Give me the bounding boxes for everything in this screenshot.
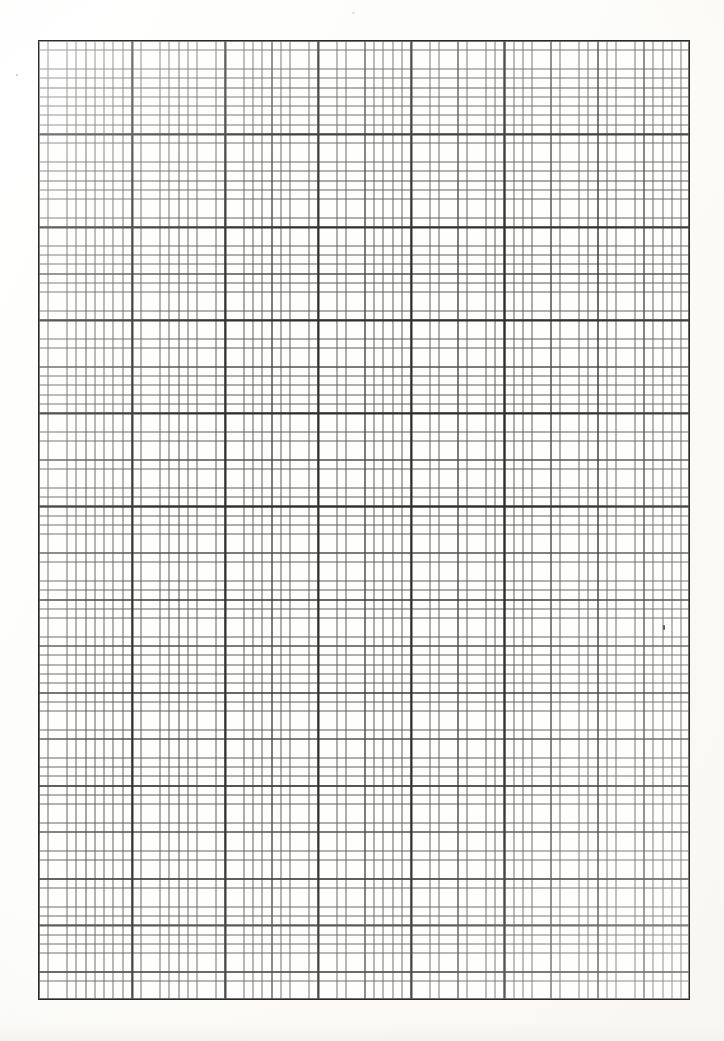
page-bottom-edge-shadow — [0, 1023, 724, 1041]
top-margin-speck-mark — [352, 12, 355, 14]
graph-grid-area — [38, 40, 690, 1000]
grid-ink-wash-overlay — [39, 41, 689, 999]
left-margin-speck-mark — [16, 74, 18, 76]
graph-paper-page — [0, 0, 724, 1041]
